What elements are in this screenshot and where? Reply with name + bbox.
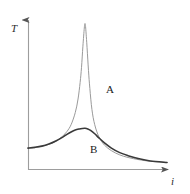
curves-group (28, 24, 167, 163)
axes-group (28, 20, 168, 170)
curve-a (28, 24, 167, 163)
resonance-curve-figure: T i A B (0, 0, 190, 194)
plot-canvas (0, 0, 190, 194)
x-axis-label: i (171, 176, 174, 187)
curve-a-label: A (106, 84, 114, 95)
curve-b-label: B (90, 144, 97, 155)
y-axis-label: T (11, 23, 17, 34)
